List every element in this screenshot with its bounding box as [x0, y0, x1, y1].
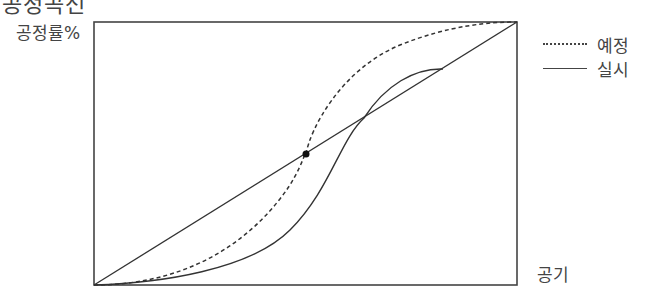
solid-line-icon [543, 68, 587, 69]
dashed-line-icon [543, 43, 587, 45]
legend-item-planned: 예정 [543, 32, 629, 56]
legend-label: 실시 [597, 56, 629, 81]
legend-item-actual: 실시 [543, 56, 629, 80]
legend-label: 예정 [597, 32, 629, 57]
intersection-point [303, 151, 310, 158]
legend: 예정 실시 [543, 32, 629, 80]
